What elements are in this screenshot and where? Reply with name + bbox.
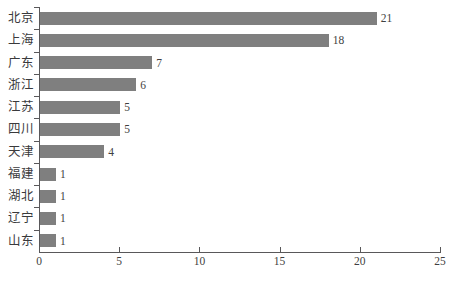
bar-8[interactable] bbox=[40, 168, 56, 181]
bar-row: 江苏5 bbox=[0, 96, 452, 118]
bar-value-label-5: 5 bbox=[124, 96, 130, 118]
category-label-1: 北京 bbox=[0, 7, 34, 29]
bar-value-label-2: 18 bbox=[333, 29, 345, 51]
category-label-7: 天津 bbox=[0, 141, 34, 163]
bar-7[interactable] bbox=[40, 145, 104, 158]
x-tick-label-0: 0 bbox=[19, 255, 59, 267]
bar-9[interactable] bbox=[40, 190, 56, 203]
bar-value-label-9: 1 bbox=[60, 185, 66, 207]
category-label-11: 山东 bbox=[0, 230, 34, 252]
bar-value-label-4: 6 bbox=[140, 74, 146, 96]
bar-row: 湖北1 bbox=[0, 185, 452, 207]
bar-2[interactable] bbox=[40, 34, 329, 47]
bar-4[interactable] bbox=[40, 78, 136, 91]
category-label-4: 浙江 bbox=[0, 74, 34, 96]
bar-3[interactable] bbox=[40, 56, 152, 69]
bar-value-label-3: 7 bbox=[156, 52, 162, 74]
x-tick-label-20: 20 bbox=[340, 255, 380, 267]
bar-value-label-8: 1 bbox=[60, 163, 66, 185]
bar-row: 浙江6 bbox=[0, 74, 452, 96]
x-axis-line bbox=[39, 252, 441, 253]
category-label-8: 福建 bbox=[0, 163, 34, 185]
bar-value-label-11: 1 bbox=[60, 230, 66, 252]
bar-row: 福建1 bbox=[0, 163, 452, 185]
bar-10[interactable] bbox=[40, 212, 56, 225]
bar-chart: 北京21上海18广东7浙江6江苏5四川5天津4福建1湖北1辽宁1山东1 0510… bbox=[0, 0, 452, 281]
x-tick-label-15: 15 bbox=[260, 255, 300, 267]
category-label-3: 广东 bbox=[0, 52, 34, 74]
category-label-10: 辽宁 bbox=[0, 207, 34, 229]
category-label-5: 江苏 bbox=[0, 96, 34, 118]
bar-row: 广东7 bbox=[0, 52, 452, 74]
x-tick-label-10: 10 bbox=[179, 255, 219, 267]
bar-value-label-1: 21 bbox=[381, 7, 393, 29]
bar-1[interactable] bbox=[40, 12, 377, 25]
bar-11[interactable] bbox=[40, 234, 56, 247]
bar-row: 上海18 bbox=[0, 29, 452, 51]
category-label-6: 四川 bbox=[0, 118, 34, 140]
bar-row: 天津4 bbox=[0, 141, 452, 163]
category-label-2: 上海 bbox=[0, 29, 34, 51]
bar-row: 北京21 bbox=[0, 7, 452, 29]
bar-value-label-6: 5 bbox=[124, 118, 130, 140]
bar-5[interactable] bbox=[40, 101, 120, 114]
bar-6[interactable] bbox=[40, 123, 120, 136]
bar-row: 四川5 bbox=[0, 118, 452, 140]
bar-row: 辽宁1 bbox=[0, 207, 452, 229]
bar-value-label-10: 1 bbox=[60, 207, 66, 229]
category-label-9: 湖北 bbox=[0, 185, 34, 207]
bar-value-label-7: 4 bbox=[108, 141, 114, 163]
x-tick-label-25: 25 bbox=[420, 255, 452, 267]
bar-row: 山东1 bbox=[0, 230, 452, 252]
x-tick-label-5: 5 bbox=[99, 255, 139, 267]
